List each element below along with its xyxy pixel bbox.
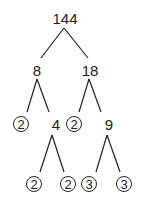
prime-factor-node: 2 bbox=[66, 116, 82, 132]
composite-node: 9 bbox=[105, 117, 113, 132]
prime-factor-node: 3 bbox=[116, 176, 132, 192]
composite-node: 4 bbox=[52, 117, 60, 132]
tree-edge bbox=[64, 28, 88, 58]
tree-edge bbox=[41, 28, 64, 58]
prime-factor-node: 2 bbox=[60, 176, 76, 192]
prime-factor-node: 3 bbox=[81, 176, 97, 192]
tree-edge bbox=[27, 79, 37, 112]
prime-factor-node: 2 bbox=[26, 176, 42, 192]
tree-edge bbox=[89, 79, 101, 112]
tree-edge bbox=[107, 135, 120, 172]
tree-edge bbox=[52, 135, 64, 172]
composite-node: 18 bbox=[82, 63, 99, 78]
composite-node: 144 bbox=[52, 11, 77, 26]
tree-edge bbox=[40, 135, 52, 172]
tree-edge bbox=[96, 135, 107, 172]
composite-node: 8 bbox=[33, 63, 41, 78]
tree-edge bbox=[79, 79, 89, 112]
prime-factor-node: 2 bbox=[13, 116, 29, 132]
tree-edge bbox=[37, 79, 49, 112]
